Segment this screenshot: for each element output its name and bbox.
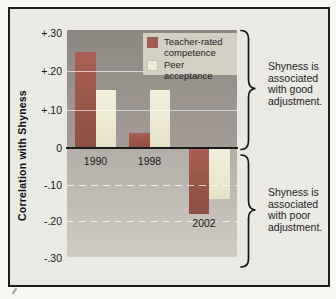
bar-peer-acceptance-1998 bbox=[150, 90, 171, 148]
page-crop-mark bbox=[12, 288, 18, 295]
y-tick-label: -.20 bbox=[28, 215, 62, 227]
bar-peer-acceptance-1990 bbox=[96, 90, 117, 148]
y-tick-label: +.30 bbox=[28, 27, 62, 39]
annotation-good-adjustment: Shyness is associated with good adjustme… bbox=[268, 61, 330, 107]
legend-item-peer-acceptance: Peer acceptance bbox=[147, 60, 235, 81]
year-label-2002: 2002 bbox=[182, 217, 226, 229]
legend-label: Teacher-rated competence bbox=[164, 37, 235, 58]
y-tick-label: -.10 bbox=[28, 179, 62, 191]
y-tick-label: +.10 bbox=[28, 104, 62, 116]
y-tick-label: 0 bbox=[28, 142, 62, 154]
annotation-poor-adjustment: Shyness is associated with poor adjustme… bbox=[268, 187, 330, 233]
bar-teacher-competence-1998 bbox=[129, 133, 150, 148]
bar-teacher-competence-2002 bbox=[189, 148, 210, 214]
peer-acceptance-swatch-icon bbox=[147, 60, 158, 71]
zero-axis-line bbox=[66, 147, 238, 149]
y-tick-label: -.30 bbox=[28, 252, 62, 264]
legend-item-teacher-rated-competence: Teacher-rated competence bbox=[147, 37, 235, 58]
y-tick-label: +.20 bbox=[28, 65, 62, 77]
legend-label: Peer acceptance bbox=[164, 60, 235, 81]
teacher-rated-competence-swatch-icon bbox=[147, 37, 158, 48]
gridline bbox=[67, 110, 237, 111]
figure-canvas: +.30+.20+.100-.10-.20-.30 199019982002 C… bbox=[0, 0, 336, 299]
bar-peer-acceptance-2002 bbox=[209, 148, 230, 199]
y-axis-title: Correlation with Shyness bbox=[16, 76, 31, 236]
gridline bbox=[67, 185, 237, 186]
year-label-1998: 1998 bbox=[128, 155, 172, 167]
bar-teacher-competence-1990 bbox=[75, 52, 96, 148]
year-label-1990: 1990 bbox=[74, 155, 118, 167]
chart-legend: Teacher-rated competence Peer acceptance bbox=[143, 33, 237, 75]
